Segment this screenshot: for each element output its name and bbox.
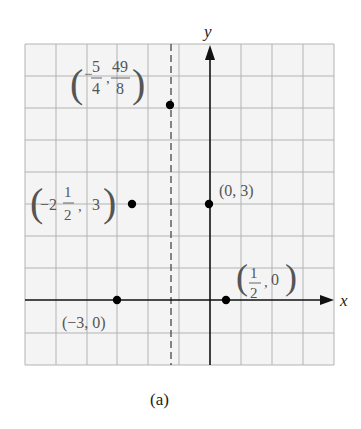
svg-text:0: 0	[271, 271, 279, 288]
svg-text:(: (	[236, 257, 248, 297]
svg-text:,: ,	[106, 70, 110, 86]
svg-text:4: 4	[92, 80, 100, 97]
svg-text:(: (	[70, 61, 83, 106]
svg-text:): )	[285, 257, 297, 297]
y-axis-label: y	[202, 22, 212, 41]
label-point-0-3: (0, 3)	[219, 182, 254, 200]
svg-text:,: ,	[78, 198, 82, 214]
svg-text:8: 8	[116, 80, 124, 97]
svg-text:,: ,	[264, 274, 268, 290]
svg-text:1: 1	[250, 265, 258, 281]
svg-text:): )	[132, 61, 145, 106]
svg-text:5: 5	[92, 58, 100, 75]
svg-text:2: 2	[250, 285, 258, 301]
point-neg5over4-49over8	[166, 101, 174, 109]
svg-text:49: 49	[112, 58, 128, 75]
x-axis-label: x	[339, 291, 348, 310]
svg-text:1: 1	[64, 184, 72, 200]
figure-caption: (a)	[150, 390, 169, 409]
point-half-0	[222, 296, 230, 304]
coordinate-plane-figure: x y ( − 5 4 , 49 8 ) ( −2 1 2 , 3 ) (0, …	[0, 0, 361, 429]
point-neg3-0	[113, 296, 121, 304]
svg-text:): )	[103, 180, 116, 225]
svg-text:3: 3	[92, 196, 100, 213]
point-neg2half-3	[128, 200, 136, 208]
label-point-neg3-0: (−3, 0)	[62, 314, 106, 332]
svg-text:−2: −2	[40, 196, 57, 213]
svg-text:2: 2	[64, 207, 72, 223]
point-0-3	[205, 200, 213, 208]
